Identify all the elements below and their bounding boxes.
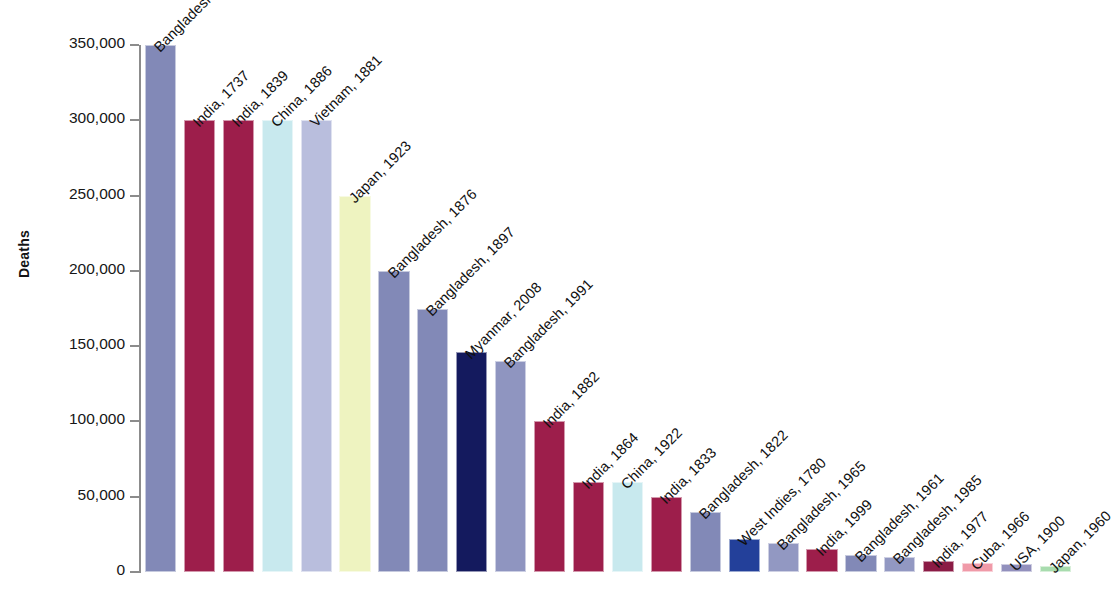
bar[interactable] bbox=[612, 482, 643, 572]
y-axis-tick-label: 150,000 bbox=[69, 335, 125, 353]
y-axis-tick-label: 200,000 bbox=[69, 260, 125, 278]
bar[interactable] bbox=[573, 482, 604, 572]
y-axis-tick-mark bbox=[130, 44, 139, 46]
y-axis-title: Deaths bbox=[16, 194, 32, 314]
y-axis-tick-label: 350,000 bbox=[69, 34, 125, 52]
y-axis-tick-label: 300,000 bbox=[69, 109, 125, 127]
bar[interactable] bbox=[417, 309, 448, 573]
bar[interactable] bbox=[339, 196, 370, 572]
x-axis-baseline bbox=[141, 573, 1075, 575]
y-axis-tick-label: 0 bbox=[116, 561, 125, 579]
y-axis-tick-mark bbox=[130, 119, 139, 121]
bar[interactable] bbox=[184, 120, 215, 572]
y-axis-tick-label: 100,000 bbox=[69, 410, 125, 428]
bar[interactable] bbox=[145, 45, 176, 572]
y-axis-tick-mark bbox=[130, 345, 139, 347]
y-axis-tick-label: 50,000 bbox=[78, 486, 125, 504]
y-axis-tick-mark bbox=[130, 270, 139, 272]
bar[interactable] bbox=[495, 361, 526, 572]
bar[interactable] bbox=[262, 120, 293, 572]
bar[interactable] bbox=[223, 120, 254, 572]
bar[interactable] bbox=[378, 271, 409, 572]
y-axis-tick-mark bbox=[130, 195, 139, 197]
y-axis-tick-mark bbox=[130, 571, 139, 573]
y-axis-tick-mark bbox=[130, 420, 139, 422]
y-axis-tick-mark bbox=[130, 496, 139, 498]
bar[interactable] bbox=[534, 421, 565, 572]
bar[interactable] bbox=[456, 352, 487, 572]
bar[interactable] bbox=[301, 120, 332, 572]
bar[interactable] bbox=[651, 497, 682, 572]
y-axis-tick-label: 250,000 bbox=[69, 185, 125, 203]
